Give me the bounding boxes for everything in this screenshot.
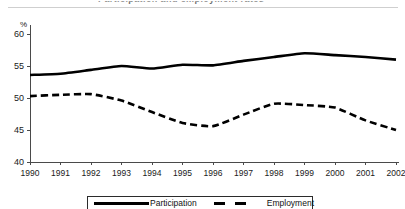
series-line-participation xyxy=(30,53,396,75)
x-tick-label: 1991 xyxy=(51,168,70,178)
legend-item-employment: Employment xyxy=(197,197,314,209)
legend-swatch-solid-icon xyxy=(94,202,149,205)
x-tick-label: 1992 xyxy=(82,168,101,178)
y-tick-label: 60 xyxy=(14,29,24,39)
x-tick-label: 1999 xyxy=(295,168,314,178)
plot-area: %404550556019901991199219931994199519961… xyxy=(0,9,405,209)
chart-legend: Participation Employment xyxy=(87,196,313,209)
y-tick-label: 55 xyxy=(14,61,24,71)
x-tick-label: 1994 xyxy=(143,168,162,178)
line-chart: %404550556019901991199219931994199519961… xyxy=(0,9,405,209)
x-tick-label: 1997 xyxy=(234,168,253,178)
cropped-title-text: Participation and employment rates xyxy=(98,0,264,4)
x-tick-label: 1998 xyxy=(265,168,284,178)
x-tick-label: 1993 xyxy=(112,168,131,178)
x-tick-label: 2000 xyxy=(326,168,345,178)
legend-item-participation: Participation xyxy=(88,197,197,209)
series-line-employment xyxy=(30,94,396,130)
y-axis-unit-label: % xyxy=(20,20,27,29)
x-tick-label: 1996 xyxy=(204,168,223,178)
legend-label-participation: Participation xyxy=(150,199,197,208)
x-tick-label: 1990 xyxy=(21,168,40,178)
y-tick-label: 40 xyxy=(14,157,24,167)
x-tick-label: 2001 xyxy=(356,168,375,178)
legend-label-employment: Employment xyxy=(267,199,314,208)
legend-swatch-dashed-icon xyxy=(214,202,256,205)
x-tick-label: 2002 xyxy=(387,168,405,178)
y-tick-label: 45 xyxy=(14,125,24,135)
y-tick-label: 50 xyxy=(14,93,24,103)
cropped-title-remnant: Participation and employment rates xyxy=(0,0,405,9)
header-rule xyxy=(8,7,398,8)
x-tick-label: 1995 xyxy=(173,168,192,178)
